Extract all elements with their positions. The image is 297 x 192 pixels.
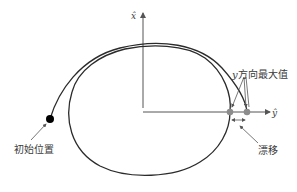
outer-trajectory-curve	[50, 43, 247, 119]
inner-trajectory-curve	[69, 46, 231, 175]
x-axis-label: x̂	[131, 12, 136, 21]
drift-pointer	[240, 126, 258, 143]
initial-position-pointer	[31, 124, 46, 140]
y-max-label-text: 方向最大值	[238, 69, 288, 80]
diagram-svg	[0, 0, 297, 192]
drift-label: 漂移	[258, 146, 278, 156]
trajectory-diagram: x̂ ŷ 初始位置 y方向最大值 漂移	[0, 0, 297, 192]
y-max-pointer-1	[232, 77, 244, 107]
y-max-marker-inner	[227, 109, 234, 116]
y-max-pointer-3	[246, 77, 249, 107]
y-axis-label: ŷ	[272, 109, 277, 118]
initial-position-label: 初始位置	[14, 145, 54, 155]
initial-position-marker	[46, 115, 54, 123]
y-max-label: y方向最大值	[232, 65, 288, 81]
y-max-marker-outer	[244, 109, 251, 116]
